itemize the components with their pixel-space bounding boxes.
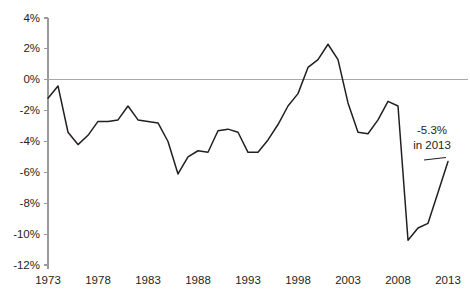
x-axis-tick-label: 1998 xyxy=(285,274,311,286)
y-axis-tick-label: -12% xyxy=(13,259,40,271)
x-axis-tick-label: 1978 xyxy=(85,274,111,286)
line-chart: 4%2%0%-2%-4%-6%-8%-10%-12% 1973197819831… xyxy=(0,0,470,299)
x-axis-tick-label: 2008 xyxy=(385,274,411,286)
x-axis-tick-label: 2013 xyxy=(435,274,461,286)
x-axis-tick-group: 197319781983198819931998200320082013 xyxy=(35,265,461,286)
y-axis-tick-label: 2% xyxy=(23,42,40,54)
y-axis-tick-label: 4% xyxy=(23,12,40,24)
y-axis-tick-label: -6% xyxy=(20,166,40,178)
y-axis-tick-label: 0% xyxy=(23,73,40,85)
callout-leader-line xyxy=(424,158,446,160)
y-axis-tick-label: -8% xyxy=(20,197,40,209)
x-axis-tick-label: 1983 xyxy=(135,274,161,286)
x-axis-tick-label: 2003 xyxy=(335,274,361,286)
x-axis-tick-label: 1988 xyxy=(185,274,211,286)
y-axis-tick-group: 4%2%0%-2%-4%-6%-8%-10%-12% xyxy=(13,12,48,271)
annotation-year: in 2013 xyxy=(413,139,451,151)
y-axis-tick-label: -4% xyxy=(20,135,40,147)
x-axis-tick-label: 1973 xyxy=(35,274,61,286)
data-series-line xyxy=(48,44,448,240)
annotation-value: -5.3% xyxy=(417,124,447,136)
y-axis-tick-label: -10% xyxy=(13,228,40,240)
y-axis-tick-label: -2% xyxy=(20,104,40,116)
chart-container: 4%2%0%-2%-4%-6%-8%-10%-12% 1973197819831… xyxy=(0,0,470,299)
x-axis-tick-label: 1993 xyxy=(235,274,261,286)
